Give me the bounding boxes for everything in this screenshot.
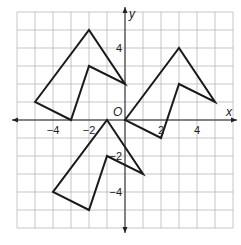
x-tick-label: 4 (194, 124, 200, 136)
origin-label: O (113, 105, 122, 119)
x-axis-arrow-left-icon (12, 118, 18, 123)
y-tick-label: −4 (109, 186, 122, 198)
y-tick-label: 4 (116, 42, 122, 54)
y-axis-label: y (128, 7, 136, 21)
y-axis-arrow-down-icon (123, 227, 128, 233)
x-axis-label: x (225, 105, 233, 119)
coordinate-plane: x y O −4−2244−2−4 (0, 0, 241, 245)
figure-lower (53, 120, 143, 210)
y-axis-arrow-up-icon (123, 7, 128, 13)
x-tick-label: 2 (158, 124, 164, 136)
figure-upper-left (35, 30, 125, 120)
x-tick-label: −2 (83, 124, 96, 136)
figure-upper-right (125, 48, 215, 138)
y-tick-label: −2 (109, 150, 122, 162)
x-tick-label: −4 (47, 124, 60, 136)
